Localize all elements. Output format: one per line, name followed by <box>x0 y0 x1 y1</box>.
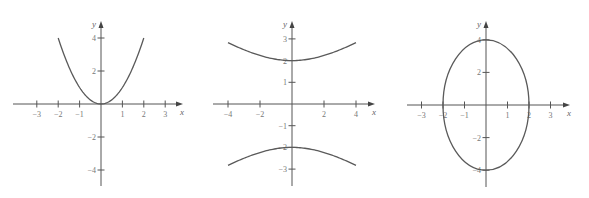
x-tick-label: −2 <box>54 110 63 119</box>
x-tick-label: 3 <box>163 110 167 119</box>
y-tick-label: −3 <box>278 165 287 174</box>
x-tick-label: −3 <box>33 110 42 119</box>
y-tick-label: 2 <box>477 68 481 77</box>
x-axis-arrow-icon <box>563 103 570 108</box>
y-axis-label: y <box>91 19 96 29</box>
y-axis-arrow-icon <box>290 21 295 28</box>
y-tick-label: −1 <box>278 122 287 131</box>
x-tick-label: 3 <box>549 111 553 120</box>
x-axis-arrow-icon <box>368 102 375 107</box>
y-tick-label: 4 <box>92 34 96 43</box>
y-tick-label: 2 <box>92 67 96 76</box>
y-tick-label: −2 <box>87 133 96 142</box>
x-axis-label: x <box>371 107 376 117</box>
x-tick-label: −1 <box>460 111 469 120</box>
y-axis-arrow-icon <box>99 21 104 28</box>
y-axis-arrow-icon <box>484 21 489 28</box>
x-tick-label: −1 <box>75 110 84 119</box>
x-axis-arrow-icon <box>176 102 183 107</box>
figure-canvas: xy−3−2−112342−2−4 xy−4−224321−1−2−3 xy−3… <box>0 0 589 198</box>
x-tick-label: 4 <box>354 110 358 119</box>
graph-hyperbola: xy−4−224321−1−2−3 <box>213 19 376 186</box>
y-axis-label: y <box>282 19 287 29</box>
x-tick-label: −2 <box>256 110 265 119</box>
y-tick-label: −2 <box>472 134 481 143</box>
x-tick-label: 1 <box>120 110 124 119</box>
y-tick-label: 2 <box>283 57 287 66</box>
y-axis-label: y <box>476 19 481 29</box>
y-tick-label: 3 <box>283 35 287 44</box>
x-axis-label: x <box>179 107 184 117</box>
y-tick-label: 1 <box>283 78 287 87</box>
graph-ellipse: xy−3−2−112342−2−4 <box>407 19 571 187</box>
x-tick-label: 1 <box>506 111 510 120</box>
x-tick-label: −3 <box>417 111 426 120</box>
x-axis-label: x <box>566 108 571 118</box>
x-tick-label: 2 <box>142 110 146 119</box>
x-tick-label: 2 <box>322 110 326 119</box>
y-tick-label: −4 <box>87 166 96 175</box>
x-tick-label: −4 <box>224 110 233 119</box>
graph-parabola: xy−3−2−112342−2−4 <box>13 19 184 186</box>
